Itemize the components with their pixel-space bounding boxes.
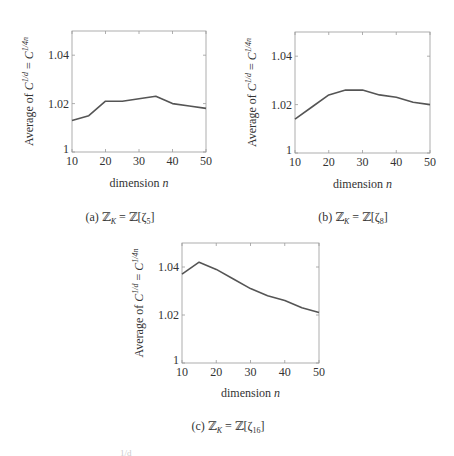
y-tick-label: 1.04 [158,260,179,274]
y-tick-label: 1.02 [158,308,179,322]
y-axis-label: Average of C1/d = C1/4n [131,248,146,357]
caption-b: (b) ℤK = ℤ[ζ8] [318,210,388,226]
plot-frame [182,243,319,363]
x-tick-label: 40 [279,365,291,379]
x-tick-label: 10 [176,365,188,379]
cropped-text-fragment: 1/d [120,448,132,456]
data-line [182,262,319,312]
caption-c: (c) ℤK = ℤ[ζ16] [192,419,265,435]
chart-svg-c: 102030405011.021.04dimension nAverage of… [0,0,454,456]
caption-a: (a) ℤK = ℤ[ζ5] [86,210,155,226]
x-axis-label: dimension n [221,386,280,400]
x-tick-label: 30 [245,365,257,379]
x-tick-label: 20 [210,365,222,379]
x-tick-label: 50 [313,365,325,379]
y-tick-label: 1 [173,353,179,367]
